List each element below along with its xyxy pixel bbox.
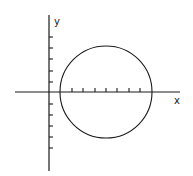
coordinate-diagram: y x: [0, 0, 193, 176]
x-axis-label: x: [174, 95, 180, 106]
axes: [15, 15, 180, 171]
y-axis-label: y: [54, 16, 60, 27]
